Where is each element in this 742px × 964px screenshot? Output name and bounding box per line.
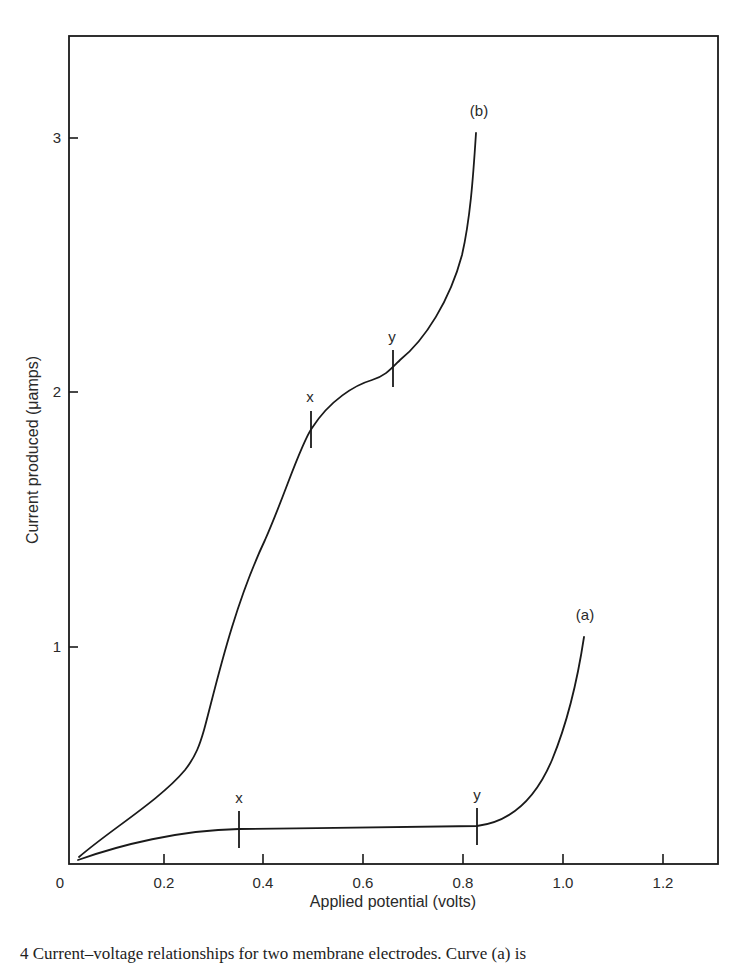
marker-a-x-label: x: [235, 789, 243, 806]
x-tick-label-0: 0: [56, 874, 64, 891]
marker-b-y-label: y: [388, 328, 396, 345]
y-tick-label-1: 1: [53, 638, 61, 655]
curve-b: [79, 133, 476, 857]
x-axis: 0 0.2 0.4 0.6 0.8 1.0 1.2 Applied potent…: [56, 854, 674, 910]
plot-frame: [69, 36, 718, 864]
x-tick-label-0.6: 0.6: [353, 874, 374, 891]
figure-caption: 4 Current–voltage relationships for two …: [20, 944, 526, 964]
x-tick-label-0.8: 0.8: [453, 874, 474, 891]
series-b-label: (b): [470, 102, 488, 119]
x-tick-label-1.2: 1.2: [653, 874, 674, 891]
y-tick-label-2: 2: [53, 383, 61, 400]
x-tick-label-0.2: 0.2: [154, 874, 175, 891]
series-a: x y (a): [78, 606, 594, 860]
x-tick-label-0.4: 0.4: [253, 874, 274, 891]
series-a-label: (a): [576, 606, 594, 623]
curve-a: [78, 637, 584, 860]
y-axis-title: Current produced (μamps): [24, 356, 41, 544]
y-tick-label-3: 3: [53, 129, 61, 146]
x-tick-label-1.0: 1.0: [553, 874, 574, 891]
marker-a-y-label: y: [473, 786, 481, 803]
x-axis-title: Applied potential (volts): [310, 893, 476, 910]
marker-b-x-label: x: [306, 388, 314, 405]
series-b: x y (b): [79, 102, 488, 857]
